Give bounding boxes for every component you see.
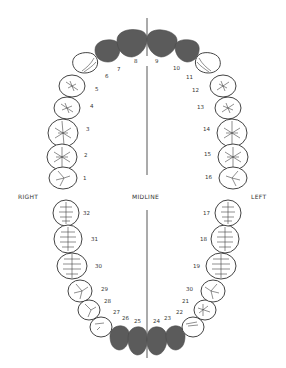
tooth-22[interactable] bbox=[182, 317, 204, 337]
tooth-label-5: 5 bbox=[95, 86, 99, 92]
tooth-label-10: 10 bbox=[173, 65, 180, 71]
tooth-16[interactable] bbox=[219, 167, 247, 189]
tooth-label-27: 27 bbox=[113, 309, 120, 315]
right-label: RIGHT bbox=[18, 193, 38, 200]
tooth-label-30: 30 bbox=[95, 263, 102, 269]
tooth-label-6: 6 bbox=[105, 73, 109, 79]
tooth-label-14: 14 bbox=[203, 126, 210, 132]
tooth-30[interactable] bbox=[57, 253, 87, 279]
tooth-label-18: 18 bbox=[200, 236, 207, 242]
tooth-label-11: 11 bbox=[186, 74, 193, 80]
tooth-label-25: 25 bbox=[134, 318, 141, 324]
tooth-28[interactable] bbox=[78, 300, 100, 320]
tooth-14[interactable] bbox=[217, 119, 247, 147]
tooth-label-8: 8 bbox=[134, 58, 138, 64]
tooth-label-4: 4 bbox=[90, 103, 94, 109]
tooth-31[interactable] bbox=[54, 225, 82, 253]
tooth-label-24: 24 bbox=[153, 318, 160, 324]
tooth-21[interactable] bbox=[194, 300, 216, 320]
tooth-label-20: 30 bbox=[186, 286, 193, 292]
tooth-label-15: 15 bbox=[204, 151, 211, 157]
tooth-label-23: 23 bbox=[164, 315, 171, 321]
tooth-26[interactable] bbox=[110, 326, 129, 350]
tooth-label-31: 31 bbox=[91, 236, 98, 242]
tooth-label-26: 26 bbox=[122, 315, 129, 321]
tooth-19[interactable] bbox=[206, 253, 236, 279]
tooth-7[interactable] bbox=[95, 40, 120, 62]
midline-label: MIDLINE bbox=[132, 193, 159, 200]
tooth-13[interactable] bbox=[215, 97, 241, 119]
tooth-label-7: 7 bbox=[117, 66, 121, 72]
tooth-label-3: 3 bbox=[86, 126, 90, 132]
tooth-32[interactable] bbox=[53, 200, 79, 226]
tooth-15[interactable] bbox=[218, 144, 248, 170]
tooth-18[interactable] bbox=[211, 225, 239, 253]
tooth-12[interactable] bbox=[210, 75, 236, 97]
tooth-label-17: 17 bbox=[203, 210, 210, 216]
tooth-8[interactable] bbox=[117, 29, 147, 57]
tooth-label-12: 12 bbox=[192, 87, 199, 93]
tooth-11[interactable] bbox=[195, 53, 220, 73]
tooth-label-9: 9 bbox=[155, 58, 159, 64]
tooth-29[interactable] bbox=[68, 280, 92, 302]
tooth-label-22: 22 bbox=[176, 309, 183, 315]
tooth-label-29: 29 bbox=[101, 286, 108, 292]
tooth-24[interactable] bbox=[147, 327, 167, 355]
tooth-20[interactable] bbox=[201, 280, 225, 302]
tooth-25[interactable] bbox=[128, 327, 147, 355]
tooth-1[interactable] bbox=[49, 167, 77, 189]
tooth-label-1: 1 bbox=[83, 175, 87, 181]
tooth-9[interactable] bbox=[147, 30, 177, 57]
tooth-4[interactable] bbox=[54, 97, 80, 119]
tooth-2[interactable] bbox=[47, 144, 77, 170]
tooth-label-32: 32 bbox=[83, 210, 90, 216]
tooth-label-21: 21 bbox=[182, 298, 189, 304]
tooth-label-2: 2 bbox=[84, 152, 88, 158]
left-label: LEFT bbox=[251, 193, 266, 200]
tooth-3[interactable] bbox=[48, 119, 78, 147]
tooth-label-28: 28 bbox=[104, 298, 111, 304]
tooth-5[interactable] bbox=[59, 75, 85, 97]
tooth-6[interactable] bbox=[73, 53, 98, 73]
tooth-label-13: 13 bbox=[197, 104, 204, 110]
tooth-27[interactable] bbox=[90, 317, 112, 337]
tooth-label-19: 19 bbox=[193, 263, 200, 269]
tooth-label-16: 16 bbox=[205, 174, 212, 180]
tooth-17[interactable] bbox=[215, 200, 241, 226]
tooth-chart: 1 2 3 4 5 6 7 8 9 10 11 12 13 14 15 16 R… bbox=[0, 0, 286, 368]
